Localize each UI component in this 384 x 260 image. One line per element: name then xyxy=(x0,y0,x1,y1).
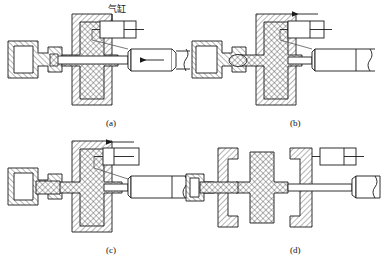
panel-d-caption: (d) xyxy=(290,245,301,255)
panel-c-caption: (c) xyxy=(106,245,116,255)
panel-d-core-rod xyxy=(288,184,352,191)
panel-d-cylinder-body xyxy=(352,176,380,198)
cylinder-label: 气缸 xyxy=(108,3,126,14)
panel-b-caption: (b) xyxy=(290,118,301,128)
panel-d-cylinder-symbol xyxy=(312,148,364,165)
panel-b-core-rod xyxy=(288,57,312,64)
panel-a-core-rod xyxy=(50,54,128,66)
panel-a-caption: (a) xyxy=(106,118,116,128)
figure-sheet: 气缸 (a) xyxy=(0,0,384,260)
panel-c-core-rod xyxy=(104,184,128,191)
